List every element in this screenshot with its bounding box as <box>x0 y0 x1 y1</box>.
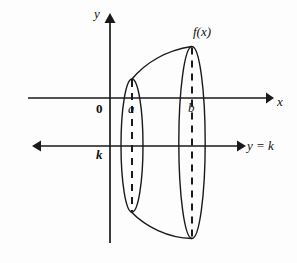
arrow-right-icon-x-axis <box>266 93 274 104</box>
math-figure: y x f(x) 0 a b k y = k <box>0 0 297 263</box>
axis-of-revolution-label: y = k <box>247 139 274 152</box>
y-axis-label: y <box>94 7 100 20</box>
k-intercept-label: k <box>96 148 103 161</box>
x-axis-label: x <box>277 95 283 108</box>
left-bound-label-a: a <box>128 102 135 115</box>
figure-canvas <box>0 0 297 263</box>
arrow-up-icon-y-axis <box>105 13 116 23</box>
right-bound-label-b: b <box>188 101 195 114</box>
origin-label: 0 <box>96 102 103 115</box>
function-curve-label: f(x) <box>193 25 211 38</box>
solid-bottom-profile-curve <box>131 212 192 239</box>
arrow-left-icon-revolution-axis <box>32 141 41 152</box>
arrow-right-icon-revolution-axis <box>237 141 246 152</box>
